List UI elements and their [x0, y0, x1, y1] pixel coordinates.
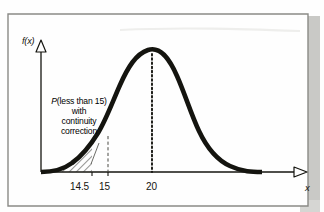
annotation-block: P(less than 15) with continuity correcti… — [38, 96, 120, 136]
figure-root: f(x) x P(less than 15) with continuity c… — [0, 0, 324, 212]
annotation-line-1-rest: (less than 15) — [57, 96, 107, 106]
tick-label-14-5: 14.5 — [70, 181, 89, 192]
x-axis-label: x — [305, 183, 310, 194]
annotation-line-4: correction — [38, 126, 120, 136]
annotation-line-1: P(less than 15) — [38, 96, 120, 106]
tick-label-20: 20 — [146, 181, 157, 192]
annotation-line-2: with — [38, 106, 120, 116]
y-axis-label: f(x) — [22, 36, 34, 46]
annotation-line-3: continuity — [38, 116, 120, 126]
tick-label-15: 15 — [99, 181, 110, 192]
